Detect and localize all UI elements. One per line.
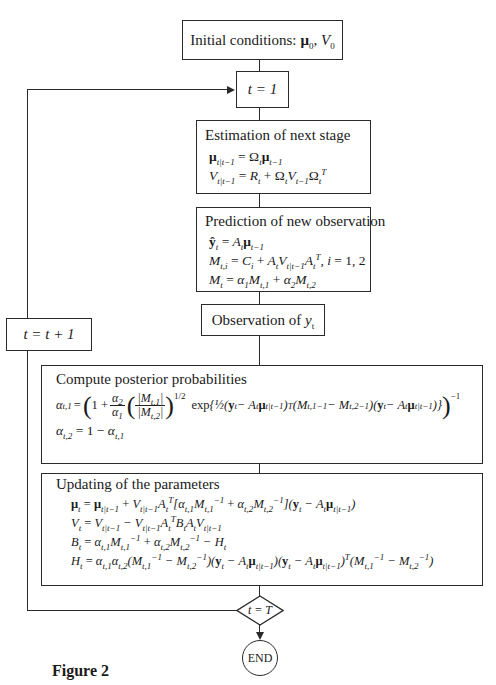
t-init-label: t = 1: [248, 81, 277, 98]
node-estimation: Estimation of next stage μt|t−1 = Ωtμt−1…: [196, 120, 371, 194]
update-eq-2: Vt = Vt|t−1 − Vt|t−1AtTBtAtVt|t−1: [71, 514, 482, 533]
estimation-title: Estimation of next stage: [205, 127, 370, 144]
decision-label: t = T: [248, 603, 272, 618]
posterior-eq-1: αt,1=(1 + α2α1 (|Mt,1||Mt,2|)1/2 exp{½(y…: [56, 392, 482, 419]
arrow-to-tinit: [227, 86, 235, 94]
loop-bottom-horizontal: [27, 610, 245, 611]
posterior-eq-2: αt,2 = 1 − αt,1: [56, 421, 482, 440]
observation-label: Observation of yt: [212, 312, 315, 329]
edge-estimation-prediction: [259, 193, 260, 207]
node-initial-conditions: Initial conditions: μ0, V0: [182, 20, 343, 60]
update-eq-4: Ht = αt,1αt,2(Mt,1−1 − Mt,2−1)(yt − Atμt…: [71, 552, 482, 571]
prediction-eq-1: ŷt = Atμt−1: [209, 232, 370, 251]
prediction-title: Prediction of new observation: [205, 213, 370, 230]
node-posterior: Compute posterior probabilities αt,1=(1 …: [41, 365, 483, 464]
end-label: END: [248, 651, 273, 666]
initial-conditions-label: Initial conditions:: [190, 32, 296, 49]
update-eq-1: μt = μt|t−1 + Vt|t−1AtT[αt,1Mt,1−1 + αt,…: [71, 495, 482, 514]
arrow-to-end: [256, 632, 264, 640]
increment-label: t = t + 1: [23, 326, 74, 343]
edge-prediction-observation: [259, 291, 260, 304]
node-observation: Observation of yt: [201, 304, 325, 336]
node-increment: t = t + 1: [6, 318, 92, 351]
figure-caption: Figure 2: [52, 662, 109, 680]
node-end: END: [242, 640, 278, 676]
posterior-title: Compute posterior probabilities: [56, 371, 482, 388]
node-prediction: Prediction of new observation ŷt = Atμt−…: [196, 207, 371, 292]
prediction-eq-3: Mt = α1Mt,1 + α2Mt,2: [209, 270, 370, 289]
node-update: Updating of the parameters μt = μt|t−1 +…: [41, 473, 483, 586]
update-title: Updating of the parameters: [56, 476, 482, 493]
edge-tinit-estimation: [259, 107, 260, 120]
update-eq-3: Bt = αt,1Mt,1−1 + αt,2Mt,2−1 − Ht: [71, 533, 482, 552]
node-t-init: t = 1: [236, 71, 289, 108]
estimation-eq-1: μt|t−1 = Ωtμt−1: [209, 147, 370, 166]
loop-left-lower-vertical: [27, 350, 28, 611]
edge-posterior-update: [259, 463, 260, 473]
loop-left-upper-vertical: [27, 89, 28, 318]
edge-observation-posterior: [259, 335, 260, 365]
estimation-eq-2: Vt|t−1 = Rt + ΩtVt−1ΩtT: [209, 166, 370, 185]
prediction-eq-2: Mt,i = Ci + AtVt|t−1AtT, i = 1, 2: [209, 251, 370, 270]
decision-label-wrap: t = T: [236, 595, 284, 626]
initial-conditions-vars: μ0, V0: [301, 32, 335, 49]
loop-top-horizontal: [27, 89, 227, 90]
